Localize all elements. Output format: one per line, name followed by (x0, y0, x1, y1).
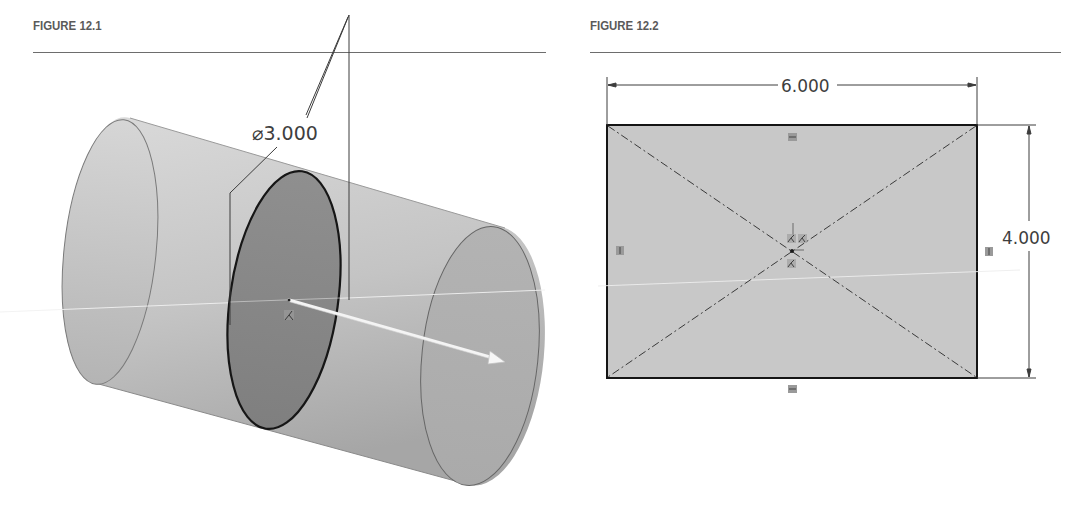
horizontal-relation-icon (788, 385, 797, 393)
width-dimension-text: 6.000 (781, 76, 830, 96)
figure-12-2-drawing: 6.000 4.000 (0, 0, 1081, 509)
height-dimension-text: 4.000 (1002, 228, 1051, 248)
horizontal-relation-icon (788, 133, 797, 141)
vertical-relation-icon (985, 247, 993, 256)
vertical-relation-icon (616, 246, 624, 255)
